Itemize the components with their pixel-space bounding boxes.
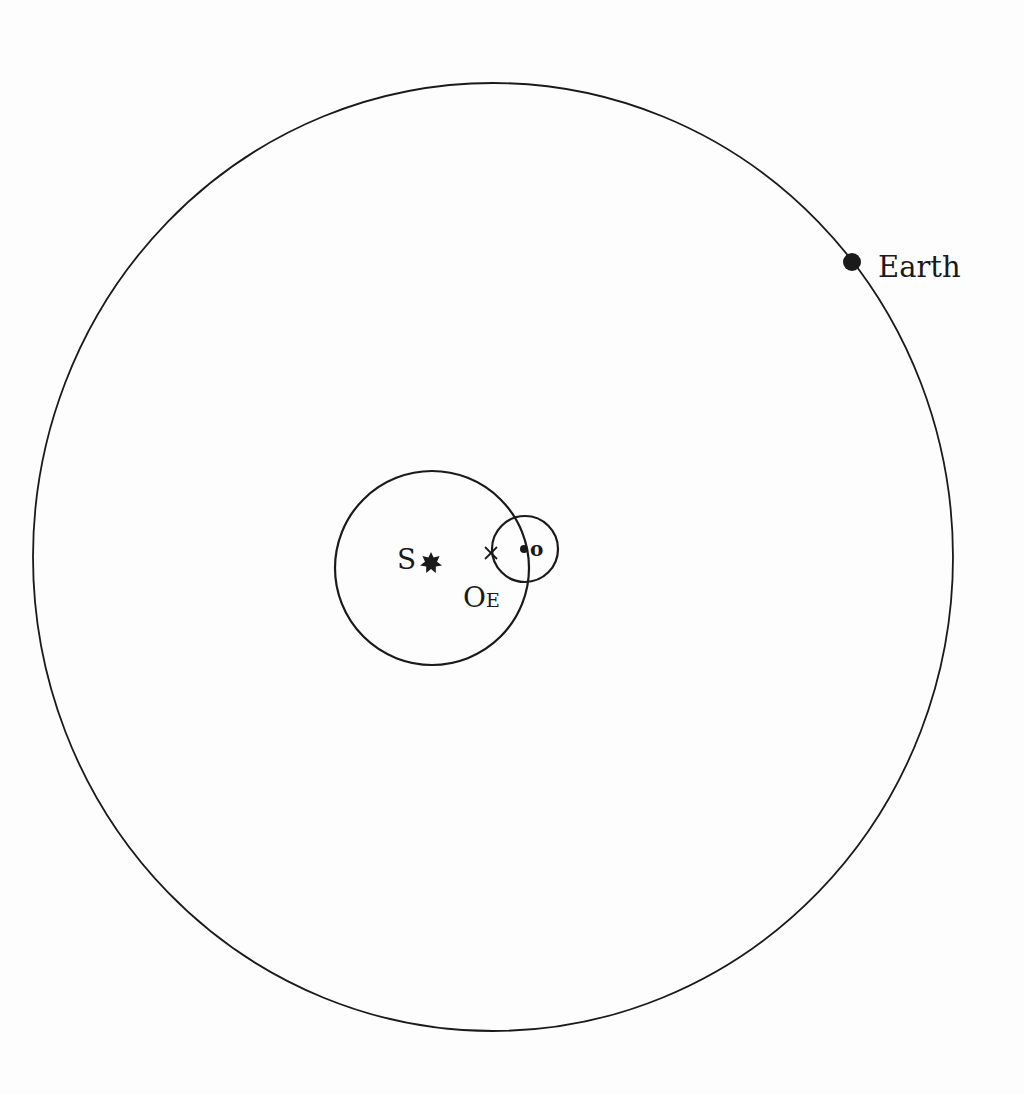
earth-label: Earth [878,250,961,284]
orbit-diagram: Earth o S OE [0,0,1024,1094]
equant-label-e: E [486,589,500,611]
earth-icon [843,253,861,271]
point-o-icon [520,545,528,553]
sun-label: S [397,543,416,576]
equant-label-o: O [463,581,486,614]
sun-star-icon [420,552,442,573]
point-o-label: o [530,537,543,561]
equant-label: OE [463,581,500,614]
